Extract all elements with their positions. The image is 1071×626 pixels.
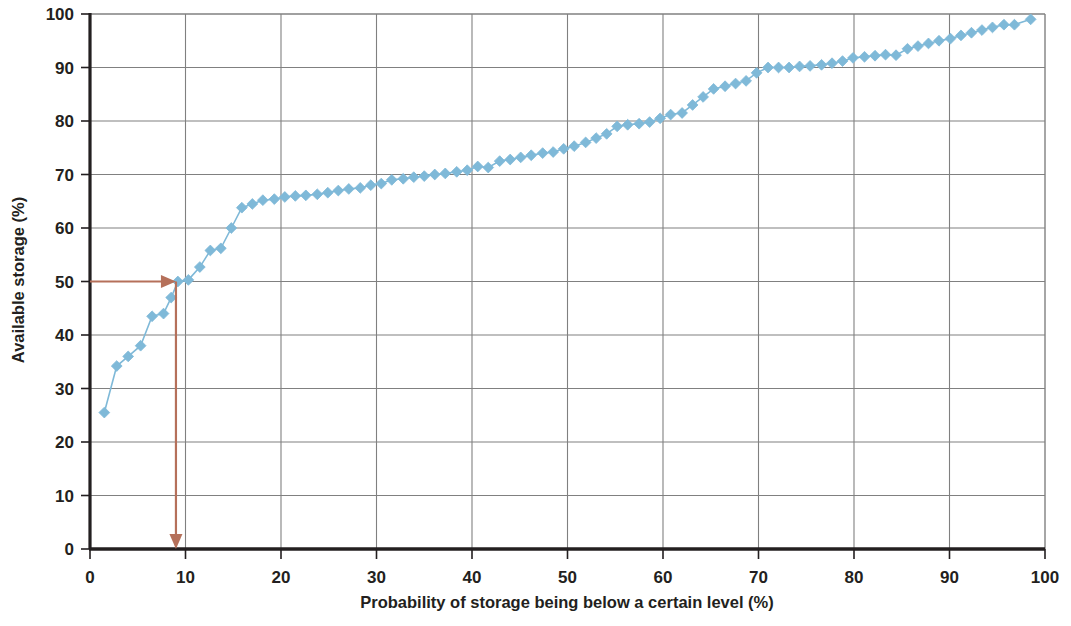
chart-container: 0102030405060708090100 01020304050607080… [0,0,1071,626]
y-tick-label: 70 [55,166,74,185]
y-axis-title: Available storage (%) [9,197,27,363]
x-tick-label: 80 [845,568,864,587]
x-tick-label: 0 [85,568,94,587]
x-tick-label: 30 [367,568,386,587]
y-tick-label: 30 [55,380,74,399]
x-tick-label: 10 [176,568,195,587]
y-tick-label: 80 [55,112,74,131]
y-tick-label: 50 [55,273,74,292]
x-axis-title: Probability of storage being below a cer… [360,593,774,611]
x-tick-label: 20 [272,568,291,587]
y-tick-label: 100 [46,5,74,24]
y-tick-label: 20 [55,433,74,452]
x-tick-label: 50 [558,568,577,587]
y-tick-label: 90 [55,59,74,78]
y-tick-label: 40 [55,326,74,345]
x-tick-label: 100 [1031,568,1059,587]
y-tick-label: 60 [55,219,74,238]
x-tick-label: 70 [749,568,768,587]
y-tick-label: 0 [65,540,74,559]
x-tick-label: 40 [463,568,482,587]
x-tick-label: 90 [940,568,959,587]
x-tick-label: 60 [654,568,673,587]
y-tick-label: 10 [55,487,74,506]
storage-probability-chart: 0102030405060708090100 01020304050607080… [0,0,1071,626]
